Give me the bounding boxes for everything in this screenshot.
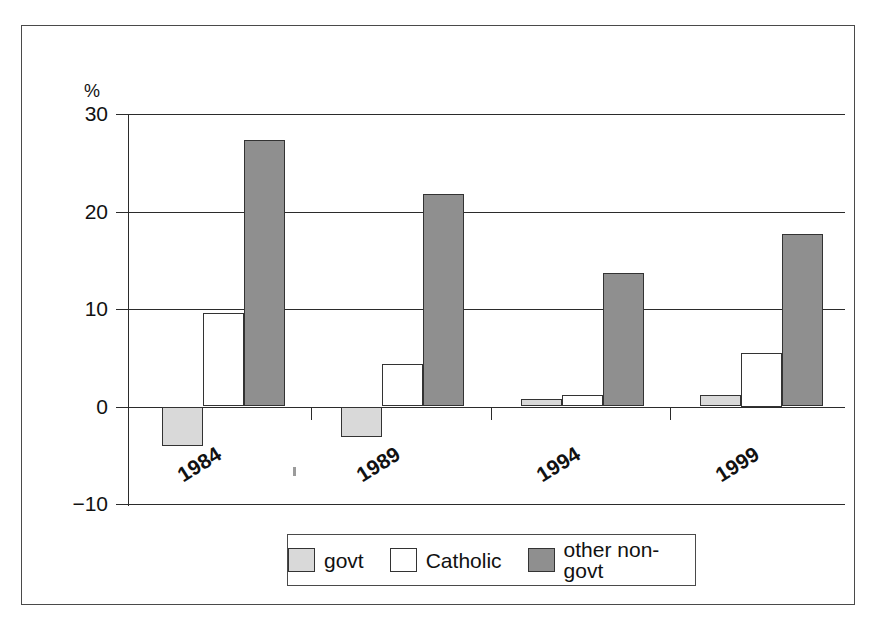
legend-item-govt: govt — [288, 548, 364, 572]
legend-item-other-non-govt: other non-govt — [528, 539, 695, 581]
gridline-30 — [128, 114, 845, 115]
bar-1994-govt — [521, 399, 562, 407]
bar-1984-Catholic — [203, 313, 244, 407]
bar-1989-govt — [341, 407, 382, 437]
y-axis-label-2: 10 — [46, 298, 108, 319]
gridline-20 — [128, 212, 845, 213]
scan-artifact-speck — [293, 467, 296, 476]
gridline--10 — [128, 504, 845, 505]
y-axis-label-3: 0 — [46, 396, 108, 417]
chart-legend: govtCatholicother non-govt — [287, 534, 696, 586]
x-tick-1 — [311, 407, 312, 420]
figure-outer-frame: % 3020100−10 1984198919941999 govtCathol… — [21, 25, 855, 605]
legend-swatch-light-gray — [288, 548, 315, 572]
y-axis-label-4: −10 — [46, 493, 108, 514]
legend-label-text: govt — [324, 550, 364, 571]
bar-1999-Catholic — [741, 353, 782, 407]
bar-1984-govt — [162, 407, 203, 446]
legend-swatch-dark-gray — [528, 548, 555, 572]
y-tick-3 — [116, 407, 128, 408]
bar-1994-Catholic — [562, 395, 603, 407]
y-tick-4 — [116, 504, 128, 505]
legend-swatch-white — [390, 548, 417, 572]
y-axis-label-0: 30 — [46, 103, 108, 124]
gridline-0 — [128, 407, 845, 408]
bar-1989-other-non-govt — [423, 194, 464, 407]
plot-area — [128, 114, 845, 504]
legend-label-text: Catholic — [426, 550, 502, 571]
bar-1999-other-non-govt — [782, 234, 823, 407]
figure-canvas: % 3020100−10 1984198919941999 govtCathol… — [0, 0, 872, 625]
y-axis-label-1: 20 — [46, 201, 108, 222]
bar-1999-govt — [700, 395, 741, 407]
y-tick-2 — [116, 309, 128, 310]
y-tick-0 — [116, 114, 128, 115]
x-tick-3 — [670, 407, 671, 420]
y-axis-unit-label: % — [84, 81, 100, 102]
bar-1984-other-non-govt — [244, 140, 285, 406]
legend-label-text: other non-govt — [564, 539, 695, 581]
bar-1994-other-non-govt — [603, 273, 644, 407]
x-tick-2 — [491, 407, 492, 420]
legend-item-Catholic: Catholic — [390, 548, 502, 572]
bar-1989-Catholic — [382, 364, 423, 407]
y-tick-1 — [116, 212, 128, 213]
gridline-10 — [128, 309, 845, 310]
